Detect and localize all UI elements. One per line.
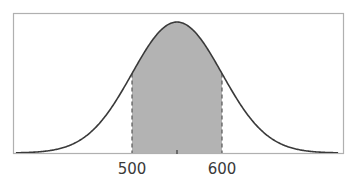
normal-distribution-chart: 500 600 (0, 0, 353, 183)
tick-label-500: 500 (118, 160, 147, 178)
tick-label-600: 600 (208, 160, 237, 178)
